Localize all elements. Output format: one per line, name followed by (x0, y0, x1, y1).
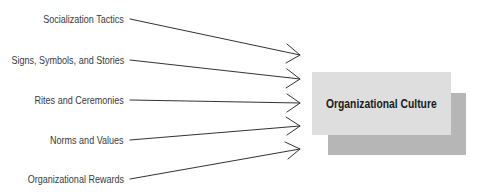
arrow-signs-symbols-stories (130, 60, 300, 88)
culture-box: Organizational Culture (312, 72, 451, 135)
arrow-norms-values (130, 117, 300, 140)
arrow-rites-ceremonies (130, 94, 300, 112)
arrow-organizational-rewards (130, 142, 300, 179)
arrow-socialization-tactics (130, 19, 300, 63)
culture-box-title: Organizational Culture (326, 97, 437, 111)
diagram-canvas: Socialization Tactics Signs, Symbols, an… (0, 0, 490, 194)
